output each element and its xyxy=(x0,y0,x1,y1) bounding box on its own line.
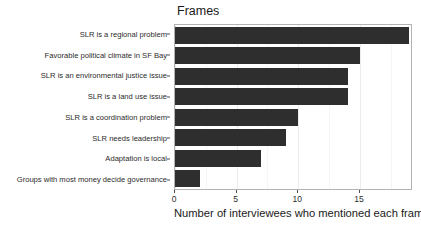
y-axis-tick-mark xyxy=(167,138,170,139)
y-axis-label: SLR needs leadership xyxy=(92,134,170,143)
bar-row xyxy=(175,107,411,128)
bar xyxy=(175,88,348,105)
y-axis-label: SLR is an environmental justice issue xyxy=(41,71,170,80)
bar xyxy=(175,150,261,167)
y-axis-label-row: Adaptation is local xyxy=(0,149,170,170)
bar xyxy=(175,68,348,85)
y-axis-label-row: Groups with most money decide governance xyxy=(0,169,170,190)
x-axis-tick-label: 5 xyxy=(233,194,238,205)
x-axis-tick-mark xyxy=(236,190,237,193)
bar xyxy=(175,109,298,126)
y-axis-tick-mark xyxy=(167,55,170,56)
bar xyxy=(175,170,200,187)
bar-row xyxy=(175,148,411,169)
bar-row xyxy=(175,128,411,149)
bars-container xyxy=(175,25,411,189)
y-axis-label: Groups with most money decide governance xyxy=(17,175,170,184)
x-axis-tick-mark xyxy=(174,190,175,193)
y-axis-label: Favorable political climate in SF Bay xyxy=(45,51,170,60)
y-axis-label: SLR is a land use issue xyxy=(88,92,170,101)
y-axis-label-row: SLR needs leadership xyxy=(0,128,170,149)
y-axis-label-row: Favorable political climate in SF Bay xyxy=(0,45,170,66)
y-axis-tick-mark xyxy=(167,75,170,76)
bar-row xyxy=(175,169,411,190)
x-axis-tick-labels: 051015 xyxy=(174,194,412,206)
x-axis-title: Number of interviewees who mentioned eac… xyxy=(174,206,412,220)
y-axis-tick-mark xyxy=(167,158,170,159)
bar-chart: Frames SLR is a regional problemFavorabl… xyxy=(0,0,421,231)
y-axis-label-row: SLR is a land use issue xyxy=(0,86,170,107)
x-axis-tick-mark xyxy=(359,190,360,193)
bar-row xyxy=(175,66,411,87)
x-axis-tick-label: 0 xyxy=(172,194,177,205)
y-axis-tick-mark xyxy=(167,179,170,180)
bar xyxy=(175,47,360,64)
y-axis-label: SLR is a coordination problem xyxy=(65,113,170,122)
bar-row xyxy=(175,87,411,108)
bar xyxy=(175,129,286,146)
y-axis-tick-mark xyxy=(167,96,170,97)
y-axis-label-row: SLR is a coordination problem xyxy=(0,107,170,128)
y-axis-label-row: SLR is a regional problem xyxy=(0,24,170,45)
x-axis-tick-label: 10 xyxy=(293,194,302,205)
bar-row xyxy=(175,46,411,67)
x-axis-tick-label: 15 xyxy=(354,194,363,205)
y-axis-category-labels: SLR is a regional problemFavorable polit… xyxy=(0,24,170,190)
x-axis-tick-mark xyxy=(297,190,298,193)
y-axis-tick-mark xyxy=(167,34,170,35)
bar-row xyxy=(175,25,411,46)
bar xyxy=(175,27,409,44)
y-axis-label: SLR is a regional problem xyxy=(80,30,170,39)
y-axis-label: Adaptation is local xyxy=(105,154,170,163)
chart-title: Frames xyxy=(177,3,219,19)
plot-panel xyxy=(174,24,412,190)
y-axis-label-row: SLR is an environmental justice issue xyxy=(0,66,170,87)
y-axis-tick-mark xyxy=(167,117,170,118)
